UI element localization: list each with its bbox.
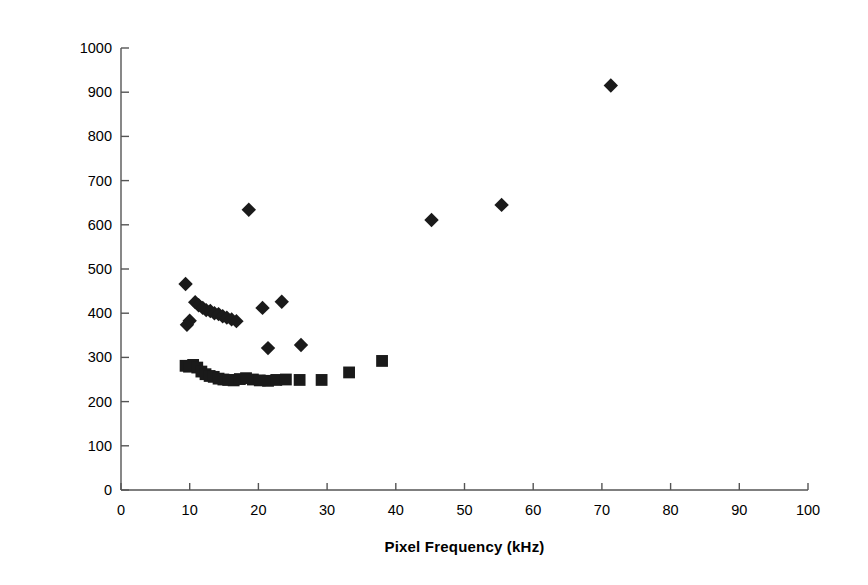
data-point: [294, 338, 308, 352]
data-point: [376, 355, 388, 367]
data-point: [604, 78, 618, 92]
data-point: [424, 213, 438, 227]
series-squares: [180, 355, 388, 387]
data-point: [294, 374, 306, 386]
plot-area: [0, 0, 868, 585]
series-diamonds: [178, 78, 618, 355]
data-point: [255, 301, 269, 315]
data-point: [275, 295, 289, 309]
data-point: [280, 374, 292, 386]
y-axis-ticks: [121, 48, 129, 490]
data-point: [261, 341, 275, 355]
x-axis-ticks: [121, 483, 808, 490]
data-point: [494, 198, 508, 212]
axis-lines: [121, 48, 808, 490]
data-point: [242, 203, 256, 217]
data-point: [343, 367, 355, 379]
scatter-chart: Read Noise (carriers) 010020030040050060…: [0, 0, 868, 585]
data-point: [178, 277, 192, 291]
data-point: [316, 374, 328, 386]
